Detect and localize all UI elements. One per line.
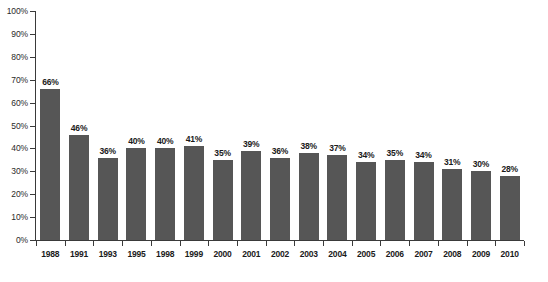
bar xyxy=(414,162,434,240)
bar xyxy=(40,89,60,240)
bar-chart: 0%10%20%30%40%50%60%70%80%90%100% 66%46%… xyxy=(0,0,548,282)
bar-value-label: 35% xyxy=(379,148,411,158)
y-tick-label: 40% xyxy=(0,143,28,153)
y-tick-mark xyxy=(30,217,35,218)
y-tick-mark xyxy=(30,171,35,172)
x-tick-mark xyxy=(524,241,525,246)
bar-value-label: 40% xyxy=(120,136,152,146)
y-tick-mark xyxy=(30,11,35,12)
bar-value-label: 39% xyxy=(235,139,267,149)
bar xyxy=(385,160,405,240)
y-tick-label: 70% xyxy=(0,75,28,85)
x-tick-mark xyxy=(495,241,496,246)
y-tick-mark xyxy=(30,240,35,241)
y-tick-mark xyxy=(30,57,35,58)
y-tick-label: 50% xyxy=(0,121,28,131)
bar xyxy=(270,158,290,240)
y-tick-mark xyxy=(30,194,35,195)
x-tick-mark xyxy=(467,241,468,246)
bar-value-label: 37% xyxy=(321,143,353,153)
bar-value-label: 31% xyxy=(436,157,468,167)
y-tick-mark xyxy=(30,126,35,127)
y-tick-mark xyxy=(30,34,35,35)
bar xyxy=(471,171,491,240)
y-tick-mark xyxy=(30,103,35,104)
x-axis-line xyxy=(35,240,524,241)
bar-value-label: 41% xyxy=(178,134,210,144)
y-tick-label: 20% xyxy=(0,189,28,199)
x-tick-mark xyxy=(36,241,37,246)
x-tick-mark xyxy=(65,241,66,246)
y-tick-label: 80% xyxy=(0,52,28,62)
bar-value-label: 40% xyxy=(149,136,181,146)
x-tick-mark xyxy=(380,241,381,246)
x-tick-mark xyxy=(180,241,181,246)
bar xyxy=(299,153,319,240)
bar xyxy=(500,176,520,240)
y-tick-label: 30% xyxy=(0,166,28,176)
category-label: 2010 xyxy=(493,249,527,259)
bar-value-label: 35% xyxy=(207,148,239,158)
bar-value-label: 66% xyxy=(34,77,66,87)
bar xyxy=(184,146,204,240)
x-tick-mark xyxy=(208,241,209,246)
x-tick-mark xyxy=(352,241,353,246)
y-axis-line xyxy=(35,11,36,241)
x-tick-mark xyxy=(438,241,439,246)
bar xyxy=(213,160,233,240)
bar-value-label: 34% xyxy=(350,150,382,160)
x-tick-mark xyxy=(237,241,238,246)
x-tick-mark xyxy=(323,241,324,246)
bar xyxy=(69,135,89,240)
y-tick-label: 90% xyxy=(0,29,28,39)
bar-value-label: 46% xyxy=(63,123,95,133)
x-tick-mark xyxy=(93,241,94,246)
bar xyxy=(327,155,347,240)
bar xyxy=(98,158,118,240)
bar xyxy=(442,169,462,240)
bar xyxy=(356,162,376,240)
bar xyxy=(241,151,261,240)
bar-value-label: 36% xyxy=(264,146,296,156)
bar-value-label: 28% xyxy=(494,164,526,174)
x-tick-mark xyxy=(151,241,152,246)
x-tick-mark xyxy=(294,241,295,246)
bar xyxy=(155,148,175,240)
y-tick-label: 10% xyxy=(0,212,28,222)
y-tick-label: 100% xyxy=(0,6,28,16)
bar-value-label: 34% xyxy=(408,150,440,160)
x-tick-mark xyxy=(409,241,410,246)
x-tick-mark xyxy=(266,241,267,246)
y-tick-label: 60% xyxy=(0,98,28,108)
bar-value-label: 30% xyxy=(465,159,497,169)
bar xyxy=(126,148,146,240)
bar-value-label: 36% xyxy=(92,146,124,156)
bar-value-label: 38% xyxy=(293,141,325,151)
y-tick-mark xyxy=(30,148,35,149)
x-tick-mark xyxy=(122,241,123,246)
y-tick-label: 0% xyxy=(0,235,28,245)
